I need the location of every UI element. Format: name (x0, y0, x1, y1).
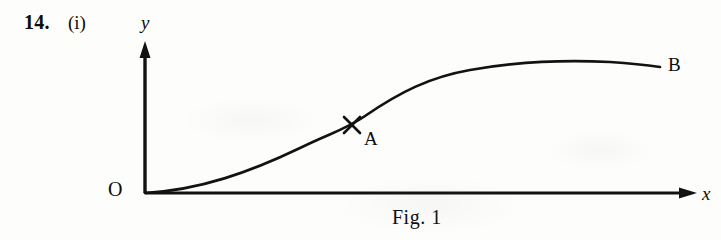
point-a-cross-marker (344, 117, 360, 133)
figure-caption: Fig. 1 (392, 206, 442, 229)
figure-page: 14. (i) y x O A B Fig. 1 (0, 0, 721, 240)
origin-label: O (108, 178, 122, 201)
x-axis-label: x (702, 183, 710, 205)
point-b-label: B (668, 54, 681, 76)
x-axis-arrowhead (679, 188, 697, 199)
sigmoid-curve (145, 61, 660, 193)
y-axis-label: y (141, 12, 149, 34)
point-a-label: A (364, 128, 378, 150)
figure-graph (0, 0, 721, 240)
y-axis-arrowhead (140, 41, 151, 58)
graph-svg (0, 0, 721, 240)
